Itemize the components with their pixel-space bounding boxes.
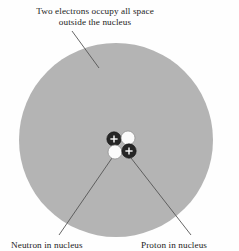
electron-cloud-caption: Two electrons occupy all space outside t… [0,6,190,28]
neutron-lower-left [108,145,122,159]
proton-upper-left [107,132,121,146]
proton-lower-right [122,144,136,158]
neutron-caption: Neutron in nucleus [11,240,83,251]
neutron-upper-right [121,131,135,145]
atom-diagram-figure: Two electrons occupy all space outside t… [0,0,239,251]
electron-cloud-caption-line2: outside the nucleus [0,17,190,28]
diagram-canvas [0,0,239,251]
proton-caption: Proton in nucleus [141,240,207,251]
electron-cloud-caption-line1: Two electrons occupy all space [36,6,154,16]
